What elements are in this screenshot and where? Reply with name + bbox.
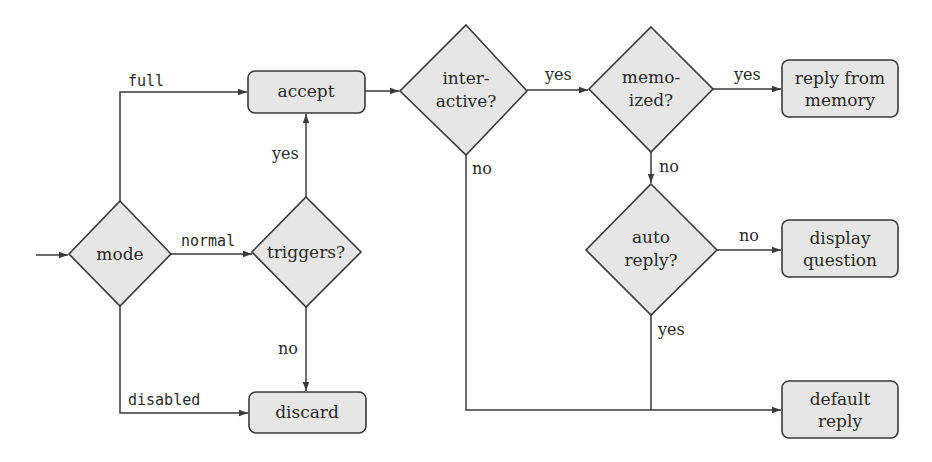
edge-label-interactive-yes: yes (544, 65, 572, 84)
node-auto-reply: auto reply? (586, 184, 717, 315)
node-label: triggers? (267, 242, 345, 262)
edge-label-memoized-yes: yes (733, 65, 761, 84)
edge-label-triggers-no: no (278, 339, 298, 358)
node-label-line-2: reply? (624, 250, 677, 270)
node-label-line-2: memory (805, 90, 876, 110)
node-accept: accept (248, 71, 365, 113)
node-label-line-2: reply (818, 411, 863, 431)
node-default-reply: default reply (782, 381, 898, 438)
node-triggers: triggers? (252, 197, 361, 307)
edge-label-full: full (128, 72, 164, 90)
decision-diamond (400, 25, 527, 155)
edge-mode-full (120, 92, 247, 201)
node-label-line-2: ized? (629, 90, 673, 110)
node-interactive: inter- active? (400, 25, 527, 155)
flowchart: full normal disabled yes no yes no yes n… (0, 0, 932, 462)
node-label-line-2: active? (436, 91, 497, 111)
node-display-question: display question (782, 220, 898, 277)
node-label: accept (278, 81, 335, 101)
edge-label-triggers-yes: yes (271, 144, 299, 163)
node-mode: mode (69, 201, 171, 306)
node-label-line-1: reply from (795, 68, 885, 88)
edge-label-auto-reply-no: no (739, 226, 759, 245)
node-label-line-2: question (803, 250, 877, 270)
edge-label-memoized-no: no (659, 157, 679, 176)
node-discard: discard (249, 392, 366, 433)
node-label-line-1: default (810, 389, 871, 409)
edge-label-auto-reply-yes: yes (657, 320, 685, 339)
node-memoized: memo- ized? (589, 27, 713, 152)
node-label-line-1: display (809, 228, 870, 248)
node-label-line-1: memo- (622, 67, 680, 87)
edge-label-normal: normal (181, 232, 235, 250)
node-label: mode (96, 244, 143, 264)
edge-label-disabled: disabled (128, 391, 200, 409)
node-reply-from-memory: reply from memory (782, 60, 898, 117)
edge-label-interactive-no: no (472, 159, 492, 178)
node-label-line-1: inter- (442, 68, 489, 88)
node-label-line-1: auto (632, 227, 670, 247)
node-label: discard (275, 402, 339, 422)
